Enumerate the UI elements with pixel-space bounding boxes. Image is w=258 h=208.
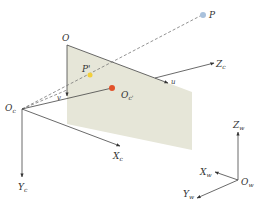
label-Xw: Xw [199,167,212,178]
yw-axis [197,180,238,198]
point-P [200,12,206,18]
label-Xc: Xc [112,151,123,162]
label-Zw: Zw [232,120,245,131]
xw-axis [215,172,238,180]
label-Yw: Yw [183,189,195,200]
label-P: P [208,10,216,20]
label-Oc: Oc [5,103,16,114]
camera-model-diagram: P P' O u v Oc' Oc Xc Yc Zc Zw Xw Yw Ow [0,0,258,208]
label-v: v [57,94,61,102]
label-P-prime: P' [81,64,91,74]
principal-point [109,85,115,91]
label-Yc: Yc [18,182,28,193]
label-O: O [62,33,70,43]
label-Zc: Zc [215,59,226,70]
label-u: u [171,78,176,86]
zc-axis-outer [155,63,214,78]
label-Ow: Ow [241,177,254,188]
